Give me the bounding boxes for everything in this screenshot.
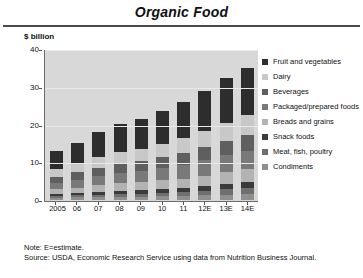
bar-segment — [135, 119, 148, 149]
y-tick-mark — [39, 201, 42, 202]
bar-2005 — [50, 151, 63, 200]
bar-segment — [114, 152, 127, 163]
bar-segment — [135, 171, 148, 182]
chart-legend: Fruit and vegetablesDairyBeveragesPackag… — [262, 58, 361, 178]
bar-segment — [114, 124, 127, 152]
bar-segment — [198, 195, 211, 200]
legend-label: Snack foods — [273, 133, 314, 142]
bar-segment — [220, 172, 233, 184]
bar-segment — [50, 169, 63, 177]
legend-swatch-icon — [262, 164, 268, 170]
bar-segment — [156, 168, 169, 180]
bar-segment — [177, 102, 190, 138]
bar-segment — [135, 149, 148, 161]
legend-item: Condiments — [262, 163, 361, 172]
chart-plot-area: 010203040 200506070809101112E13E14E — [24, 50, 260, 218]
page-title: Organic Food — [0, 3, 363, 21]
note-estimate: Note: E=estimate. — [24, 243, 354, 253]
x-tick-label: 2005 — [49, 203, 62, 214]
y-tick-mark — [39, 88, 42, 89]
legend-label: Meat, fish, poultry — [273, 148, 332, 157]
bar-segment — [177, 138, 190, 153]
note-source: Source: USDA, Economic Research Service … — [24, 253, 354, 263]
legend-item: Beverages — [262, 88, 361, 97]
bar-segment — [156, 196, 169, 200]
bar-segment — [71, 172, 84, 179]
x-tick-label: 14E — [241, 203, 254, 214]
x-tick-label: 09 — [134, 203, 147, 214]
bar-segment — [92, 168, 105, 176]
legend-item: Packaged/prepared foods — [262, 103, 361, 112]
bar-segment — [241, 151, 254, 169]
bar-segment — [177, 179, 190, 188]
bar-segment — [156, 111, 169, 143]
legend-label: Packaged/prepared foods — [273, 103, 359, 112]
y-tick-label: 20 — [30, 122, 39, 130]
footnotes: Note: E=estimate. Source: USDA, Economic… — [24, 243, 354, 263]
bar-segment — [114, 163, 127, 172]
legend-item: Meat, fish, poultry — [262, 148, 361, 157]
legend-swatch-icon — [262, 104, 268, 110]
bar-segment — [92, 132, 105, 157]
bar-segment — [71, 143, 84, 164]
bar-segment — [198, 131, 211, 147]
bar-segment — [114, 173, 127, 184]
bar-07 — [92, 132, 105, 200]
x-tick-label: 13E — [220, 203, 233, 214]
bar-13E — [220, 78, 233, 200]
y-tick-mark — [39, 50, 42, 51]
title-divider — [3, 25, 360, 27]
bar-06 — [71, 143, 84, 200]
legend-item: Snack foods — [262, 133, 361, 142]
bar-segment — [50, 198, 63, 200]
plot-canvas — [44, 50, 258, 202]
bar-segment — [71, 164, 84, 173]
x-tick-label: 08 — [113, 203, 126, 214]
bar-segment — [177, 165, 190, 179]
legend-swatch-icon — [262, 119, 268, 125]
bar-segment — [220, 141, 233, 156]
legend-item: Breads and grains — [262, 118, 361, 127]
bar-segment — [92, 185, 105, 192]
bar-12E — [198, 91, 211, 200]
bar-segment — [241, 135, 254, 151]
gridline — [45, 50, 258, 51]
bar-segment — [220, 195, 233, 200]
bar-segment — [241, 194, 254, 200]
bar-segment — [71, 197, 84, 200]
bar-segment — [156, 144, 169, 157]
y-tick-label: 10 — [30, 159, 39, 167]
bar-segment — [50, 151, 63, 169]
bar-segment — [71, 180, 84, 188]
legend-label: Dairy — [273, 73, 291, 82]
bar-segment — [177, 196, 190, 200]
bar-segment — [241, 68, 254, 115]
legend-label: Beverages — [273, 88, 309, 97]
y-tick-mark — [39, 126, 42, 127]
bar-segment — [135, 197, 148, 200]
bar-segment — [220, 78, 233, 123]
bar-segment — [114, 197, 127, 200]
bar-09 — [135, 119, 148, 200]
x-tick-label: 07 — [92, 203, 105, 214]
legend-label: Fruit and vegetables — [273, 58, 341, 67]
bar-segment — [198, 147, 211, 160]
bar-segment — [135, 182, 148, 190]
bar-segment — [50, 183, 63, 190]
x-tick-label: 11 — [177, 203, 190, 214]
bar-segment — [92, 197, 105, 200]
y-tick-mark — [39, 163, 42, 164]
gridline — [45, 126, 258, 127]
legend-item: Fruit and vegetables — [262, 58, 361, 67]
bar-segment — [198, 176, 211, 187]
chart-page: Organic Food $ billion 010203040 2005060… — [0, 0, 363, 278]
legend-label: Breads and grains — [273, 118, 334, 127]
gridline — [45, 163, 258, 164]
gridline — [45, 88, 258, 89]
bar-segment — [156, 180, 169, 189]
x-tick-label: 10 — [156, 203, 169, 214]
legend-swatch-icon — [262, 59, 268, 65]
y-axis-label: $ billion — [24, 32, 54, 41]
bar-08 — [114, 124, 127, 200]
legend-swatch-icon — [262, 149, 268, 155]
